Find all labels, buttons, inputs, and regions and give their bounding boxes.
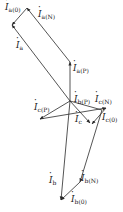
phasor-ib <box>61 101 70 200</box>
label-ia-zero: Ia(0) <box>5 3 21 13</box>
label-ib: Ib <box>49 176 56 186</box>
label-ib-zero: Ib(0) <box>71 195 87 205</box>
label-ia: Ia <box>16 41 23 51</box>
label-ic-positive: Ic(P) <box>34 103 50 113</box>
label-ic: Ic <box>75 115 82 125</box>
label-ia-positive: Ia(P) <box>73 64 89 74</box>
label-ib-positive: Ib(P) <box>74 95 90 105</box>
label-ib-negative: Ib(N) <box>81 174 98 184</box>
label-ic-negative: Ic(N) <box>95 95 112 105</box>
label-ia-negative: Ia(N) <box>38 10 55 20</box>
phasor-ia <box>12 25 70 101</box>
label-ic-zero: Ic(0) <box>102 113 117 123</box>
